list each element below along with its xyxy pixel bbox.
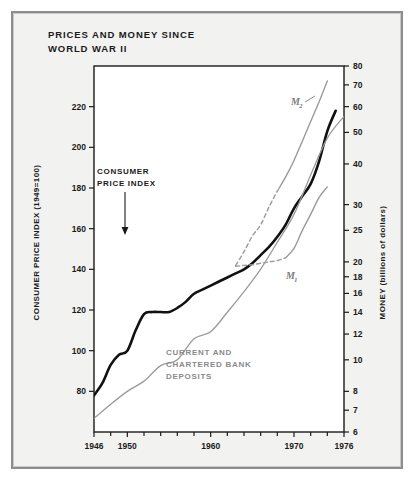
right-tick-label: 40 — [353, 159, 363, 169]
x-axis-tick-labels: 19461950196019701976 — [85, 441, 354, 451]
left-tick-label: 200 — [72, 142, 86, 152]
deposits-annotation-line2: CHARTERED BANK — [166, 360, 251, 369]
right-tick-label: 7 — [353, 405, 358, 415]
left-tick-label: 80 — [77, 386, 87, 396]
left-axis-tick-labels: 80100120140160180200220 — [72, 102, 86, 397]
left-tick-label: 140 — [72, 264, 86, 274]
x-tick-label: 1960 — [201, 441, 220, 451]
right-tick-label: 14 — [353, 307, 363, 317]
chart-svg: 80100120140160180200220 6781012141618202… — [0, 0, 417, 480]
right-tick-label: 10 — [353, 355, 363, 365]
right-tick-label: 20 — [353, 257, 363, 267]
right-axis-ticks — [344, 66, 349, 432]
right-tick-label: 8 — [353, 386, 358, 396]
x-tick-label: 1976 — [335, 441, 354, 451]
right-tick-label: 25 — [353, 225, 363, 235]
x-tick-label: 1946 — [85, 441, 104, 451]
x-tick-label: 1970 — [285, 441, 304, 451]
x-axis-ticks — [94, 432, 344, 437]
x-tick-label: 1950 — [118, 441, 137, 451]
right-tick-label: 6 — [353, 427, 358, 437]
m1-label-subscript: 1 — [294, 276, 298, 284]
deposits-annotation-line3: DEPOSITS — [166, 372, 212, 381]
right-tick-label: 70 — [353, 80, 363, 90]
cpi-annotation-line2: PRICE INDEX — [97, 179, 156, 188]
right-axis-tick-labels: 67810121416182025304050607080 — [353, 61, 363, 437]
plot-frame — [94, 66, 344, 432]
m2-label-subscript: 2 — [298, 102, 303, 110]
right-tick-label: 80 — [353, 61, 363, 71]
right-tick-label: 18 — [353, 272, 363, 282]
right-tick-label: 50 — [353, 127, 363, 137]
left-tick-label: 160 — [72, 224, 86, 234]
cpi-annotation-line1: CONSUMER — [97, 167, 149, 176]
deposits-annotation-line1: CURRENT AND — [166, 348, 232, 357]
right-tick-label: 30 — [353, 200, 363, 210]
left-tick-label: 220 — [72, 102, 86, 112]
figure-canvas: PRICES AND MONEY SINCE WORLD WAR II CONS… — [0, 0, 417, 480]
left-axis-ticks — [89, 107, 94, 392]
left-tick-label: 180 — [72, 183, 86, 193]
right-tick-label: 60 — [353, 102, 363, 112]
left-tick-label: 120 — [72, 305, 86, 315]
right-tick-label: 12 — [353, 329, 363, 339]
left-tick-label: 100 — [72, 346, 86, 356]
right-tick-label: 16 — [353, 288, 363, 298]
plot-area: 80100120140160180200220 6781012141618202… — [0, 0, 417, 480]
